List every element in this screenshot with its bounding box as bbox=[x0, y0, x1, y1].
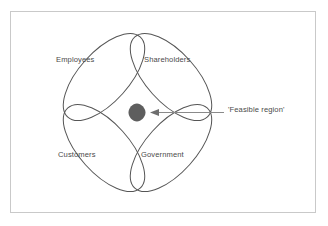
figure-root: Employees Shareholders Customers Governm… bbox=[0, 0, 328, 226]
annotation-arrow-head bbox=[150, 109, 159, 116]
venn-label-employees: Employees bbox=[56, 55, 94, 64]
feasible-region-marker bbox=[129, 104, 146, 122]
venn-label-shareholders: Shareholders bbox=[144, 55, 190, 64]
venn-label-government: Government bbox=[141, 150, 184, 159]
venn-label-customers: Customers bbox=[58, 150, 96, 159]
feasible-region-annotation-label: 'Feasible region' bbox=[228, 105, 285, 114]
